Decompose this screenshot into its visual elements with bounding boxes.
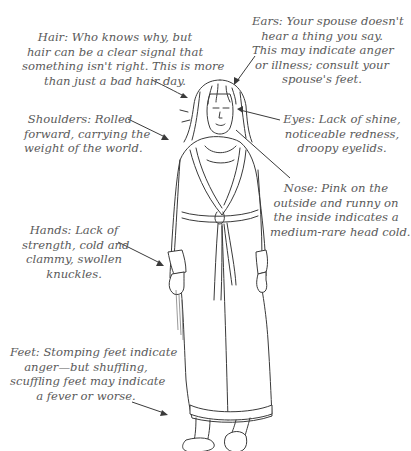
- feet-line-1: Feet: Stomping feet indicate: [10, 345, 162, 360]
- eyes-annotation: Eyes: Lack of shine, noticeable redness,…: [283, 112, 401, 156]
- hair-annotation: Hair: Who knows why, but hair can be a c…: [22, 30, 208, 88]
- left-hand: [169, 272, 184, 295]
- feet-arrow: [132, 402, 164, 413]
- feet-line-2: anger—but shuffling,: [10, 360, 162, 375]
- hair-line-1: Hair: Who knows why, but: [22, 30, 208, 45]
- shoulders-annotation: Shoulders: Rolled forward, carrying the …: [24, 112, 136, 156]
- ears-line-1: Ears: Your spouse doesn't: [252, 14, 392, 29]
- ears-line-2: hear a thing you say.: [252, 29, 392, 44]
- shoulders-line-3: weight of the world.: [24, 141, 136, 156]
- nose-line-2: outside and runny on: [270, 196, 402, 211]
- ears-line-3: This may indicate anger: [252, 43, 392, 58]
- ears-annotation: Ears: Your spouse doesn't hear a thing y…: [252, 14, 392, 87]
- eyes-line-3: droopy eyelids.: [283, 141, 401, 156]
- eyes-line-2: noticeable redness,: [283, 127, 401, 142]
- hands-line-4: knuckles.: [22, 267, 126, 282]
- eyes-line-1: Eyes: Lack of shine,: [283, 112, 401, 127]
- right-slipper: [224, 432, 246, 451]
- eyes-arrow: [240, 110, 280, 120]
- shoulders-line-1: Shoulders: Rolled: [24, 112, 136, 127]
- nose-line-4: medium-rare head cold.: [270, 225, 402, 240]
- hair-line-3: something isn't right. This is more: [22, 59, 208, 74]
- feet-annotation: Feet: Stomping feet indicate anger—but s…: [10, 345, 162, 403]
- hands-annotation: Hands: Lack of strength, cold and clammy…: [22, 223, 126, 281]
- ears-line-4: or illness; consult your: [252, 58, 392, 73]
- nose-annotation: Nose: Pink on the outside and runny on t…: [270, 181, 402, 239]
- feet-line-3: scuffling feet may indicate: [10, 374, 162, 389]
- sick-person-figure: [168, 80, 272, 451]
- hair-line-2: hair can be a clear signal that: [22, 45, 208, 60]
- ears-line-5: spouse's feet.: [252, 72, 392, 87]
- left-slipper: [183, 438, 215, 451]
- hands-line-1: Hands: Lack of: [22, 223, 126, 238]
- feet-line-4: a fever or worse.: [10, 389, 162, 404]
- hands-line-3: clammy, swollen: [22, 252, 126, 267]
- right-hand: [257, 272, 267, 292]
- hands-line-2: strength, cold and: [22, 238, 126, 253]
- nose-line-3: the inside indicates a: [270, 210, 402, 225]
- nose-line-1: Nose: Pink on the: [270, 181, 402, 196]
- hair-line-4: than just a bad hair day.: [22, 74, 208, 89]
- shoulders-line-2: forward, carrying the: [24, 127, 136, 142]
